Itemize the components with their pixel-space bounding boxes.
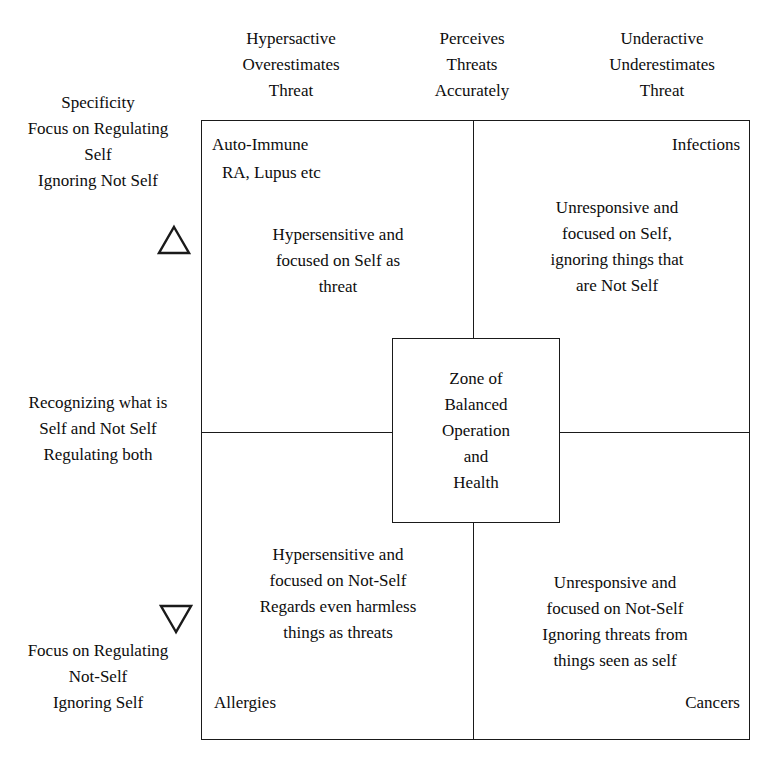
diagram-canvas: Hypersactive Overestimates Threat Percei…	[0, 0, 763, 757]
center-zone-label: Zone of Balanced Operation and Health	[393, 366, 559, 496]
quadrant-top-left-title: Auto-Immune	[212, 132, 462, 158]
row-label-focus-not-self: Focus on Regulating Not-Self Ignoring Se…	[2, 638, 194, 716]
quadrant-bottom-left-body: Hypersensitive and focused on Not-Self R…	[212, 542, 464, 646]
column-header-accurate: Perceives Threats Accurately	[382, 26, 562, 104]
row-label-specificity-self: Specificity Focus on Regulating Self Ign…	[2, 90, 194, 194]
center-zone-box: Zone of Balanced Operation and Health	[392, 338, 560, 523]
quadrant-bottom-left-footer: Allergies	[214, 690, 374, 716]
triangle-up-icon	[157, 224, 191, 256]
quadrant-top-right-title: Infections	[486, 132, 740, 158]
triangle-down-icon	[159, 603, 193, 635]
quadrant-top-right-body: Unresponsive and focused on Self, ignori…	[492, 195, 742, 299]
column-header-underactive: Underactive Underestimates Threat	[566, 26, 758, 104]
quadrant-bottom-right-footer: Cancers	[580, 690, 740, 716]
quadrant-top-left-subtitle: RA, Lupus etc	[222, 160, 472, 186]
quadrant-bottom-right-body: Unresponsive and focused on Not-Self Ign…	[488, 570, 742, 674]
quadrant-top-left-body: Hypersensitive and focused on Self as th…	[212, 222, 464, 300]
row-label-balanced-recognition: Recognizing what is Self and Not Self Re…	[2, 390, 194, 468]
column-header-hyperactive: Hypersactive Overestimates Threat	[196, 26, 386, 104]
